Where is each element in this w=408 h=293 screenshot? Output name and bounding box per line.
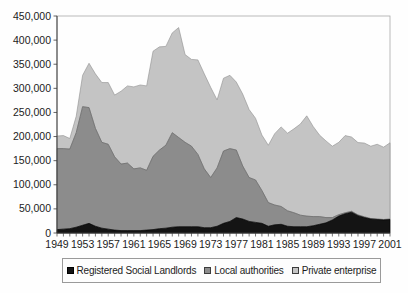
legend-label: Registered Social Landlords [77,265,197,276]
y-tick-label: 100,000 [13,178,51,190]
x-tick-label: 1985 [276,238,300,250]
legend-item-private-enterprise: Private enterprise [292,265,377,276]
x-tick-label: 1953 [71,238,95,250]
legend-key-square-icon [204,267,211,274]
legend-item-local-authorities: Local authorities [204,265,283,276]
y-tick-label: 450,000 [13,10,51,22]
legend-key-square-icon [292,267,299,274]
x-tick-label: 1977 [225,238,249,250]
legend-item-registered-social-landlords: Registered Social Landlords [67,265,197,276]
y-tick-label: 50,000 [19,202,51,214]
x-tick-label: 1949 [45,238,69,250]
y-tick-label: 250,000 [13,106,51,118]
x-tick-label: 1993 [327,238,351,250]
x-tick-label: 1973 [199,238,223,250]
chart-legend: Registered Social Landlords Local author… [62,258,381,283]
x-tick-label: 1965 [148,238,172,250]
legend-label: Private enterprise [302,265,377,276]
x-tick-label: 1981 [250,238,274,250]
y-tick-label: 350,000 [13,58,51,70]
x-tick-label: 1961 [122,238,146,250]
y-tick-label: 150,000 [13,154,51,166]
x-tick-label: 1989 [301,238,325,250]
legend-label: Local authorities [214,265,283,276]
y-tick-label: 200,000 [13,130,51,142]
stacked-area-chart: 050,000100,000150,000200,000250,000300,0… [0,0,408,293]
y-tick-label: 400,000 [13,34,51,46]
x-tick-label: 2001 [378,238,402,250]
x-tick-label: 1957 [97,238,121,250]
housebuilding-completions-chart: 050,000100,000150,000200,000250,000300,0… [0,0,408,293]
x-tick-label: 1997 [353,238,377,250]
x-tick-label: 1969 [173,238,197,250]
legend-key-square-icon [67,267,74,274]
y-tick-label: 300,000 [13,82,51,94]
